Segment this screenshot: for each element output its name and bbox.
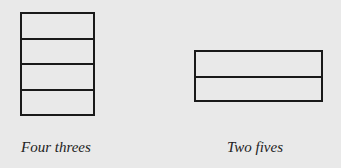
four-threes-diagram <box>20 12 95 116</box>
row-1 <box>196 52 321 78</box>
two-fives-caption: Two fives <box>227 139 283 156</box>
row-2 <box>196 78 321 100</box>
row-3 <box>22 65 93 91</box>
two-fives-diagram <box>194 50 323 102</box>
row-4 <box>22 91 93 114</box>
row-2 <box>22 40 93 65</box>
row-1 <box>22 14 93 40</box>
four-threes-caption: Four threes <box>21 139 91 156</box>
